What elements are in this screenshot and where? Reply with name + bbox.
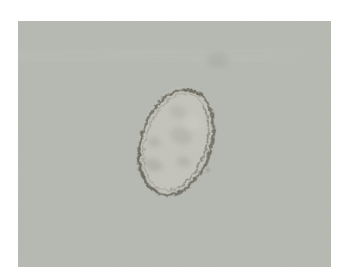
micrograph-page bbox=[0, 0, 349, 279]
micrograph bbox=[18, 21, 331, 267]
micrograph-canvas bbox=[18, 21, 331, 267]
film-grain bbox=[18, 21, 331, 267]
